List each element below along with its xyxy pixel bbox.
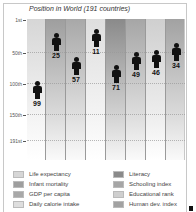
legend-right: Literacy Schooling index Educational ran… bbox=[113, 170, 177, 210]
person-icon bbox=[32, 81, 42, 99]
y-tick-191st: 191st bbox=[0, 138, 26, 144]
gridline-191st bbox=[27, 140, 185, 141]
value-label: 57 bbox=[66, 76, 86, 84]
legend-item-schooling-index: Schooling index bbox=[113, 180, 177, 190]
value-label: 49 bbox=[126, 71, 146, 79]
column-human-dev-index bbox=[166, 19, 185, 160]
legend-label: Daily calorie intake bbox=[29, 201, 79, 207]
corner-mark bbox=[189, 206, 193, 211]
value-label: 99 bbox=[27, 100, 47, 108]
person-icon bbox=[51, 33, 61, 51]
marker-educational-rank: 46 bbox=[146, 50, 166, 77]
legend-swatch bbox=[113, 191, 124, 198]
legend-item-literacy: Literacy bbox=[113, 170, 177, 180]
value-label: 46 bbox=[146, 69, 166, 77]
person-icon bbox=[151, 50, 161, 68]
legend-label: Literacy bbox=[129, 171, 150, 177]
legend-label: Human dev. index bbox=[129, 201, 177, 207]
legend-label: GDP per capita bbox=[29, 191, 70, 197]
column-educational-rank bbox=[146, 19, 166, 160]
legend-swatch bbox=[113, 171, 124, 178]
legend-item-educational-rank: Educational rank bbox=[113, 190, 177, 200]
value-label: 11 bbox=[86, 48, 106, 56]
person-icon bbox=[71, 57, 81, 75]
person-icon bbox=[91, 29, 101, 47]
y-tick-100th: 100th bbox=[0, 81, 26, 87]
legend-label: Educational rank bbox=[129, 191, 174, 197]
legend-swatch bbox=[13, 191, 24, 198]
chart-title: Position in World (191 countries) bbox=[29, 5, 130, 12]
y-tick-150th: 150th bbox=[0, 112, 26, 118]
legend-item-life-expectancy: Life expectancy bbox=[13, 170, 79, 180]
marker-schooling-index: 49 bbox=[126, 52, 146, 79]
legend-label: Life expectancy bbox=[29, 171, 71, 177]
value-label: 71 bbox=[106, 84, 126, 92]
legend-item-gdp-per-capita: GDP per capita bbox=[13, 190, 79, 200]
marker-infant-mortality: 25 bbox=[46, 33, 66, 60]
marker-life-expectancy: 99 bbox=[27, 81, 47, 108]
legend-label: Schooling index bbox=[129, 181, 171, 187]
person-icon bbox=[171, 43, 181, 61]
legend-item-daily-calorie-intake: Daily calorie intake bbox=[13, 200, 79, 210]
legend-left: Life expectancy Infant mortality GDP per… bbox=[13, 170, 79, 210]
legend-item-infant-mortality: Infant mortality bbox=[13, 180, 79, 190]
legend-label: Infant mortality bbox=[29, 181, 68, 187]
value-label: 34 bbox=[166, 62, 186, 70]
plot-area: 99 25 57 11 71 49 46 34 bbox=[27, 19, 185, 160]
legend-swatch bbox=[13, 181, 24, 188]
marker-literacy: 71 bbox=[106, 65, 126, 92]
person-icon bbox=[111, 65, 121, 83]
y-tick-50th: 50th bbox=[0, 50, 26, 56]
marker-human-dev-index: 34 bbox=[166, 43, 186, 70]
y-tick-1st: 1st bbox=[0, 17, 26, 23]
legend-swatch bbox=[113, 201, 124, 208]
column-gdp-per-capita bbox=[66, 19, 86, 160]
marker-daily-calorie-intake: 11 bbox=[86, 29, 106, 56]
legend-swatch bbox=[113, 181, 124, 188]
legend-swatch bbox=[13, 201, 24, 208]
legend-item-human-dev-index: Human dev. index bbox=[113, 200, 177, 210]
gridline-150th bbox=[27, 114, 185, 115]
value-label: 25 bbox=[46, 52, 66, 60]
person-icon bbox=[131, 52, 141, 70]
marker-gdp-per-capita: 57 bbox=[66, 57, 86, 84]
legend-swatch bbox=[13, 171, 24, 178]
column-schooling-index bbox=[126, 19, 146, 160]
